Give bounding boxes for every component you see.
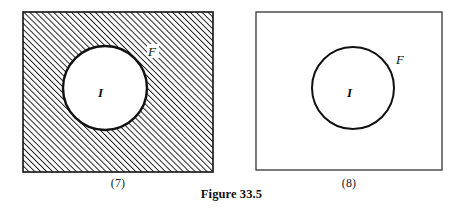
panel-7-graphic: F I [22, 11, 214, 173]
panel-7-boundary-label: F [147, 44, 157, 59]
figure-caption: Figure 33.5 [0, 187, 463, 202]
panel-8-plain-region: F I [255, 11, 443, 171]
panel-8-disc [312, 47, 394, 129]
panel-7-interior-label: I [97, 85, 104, 100]
panel-7-disc [63, 46, 147, 130]
panel-7-hatched-region: F I [22, 11, 214, 173]
panel-8-graphic: F I [255, 11, 443, 171]
panel-8-boundary-label: F [395, 52, 405, 67]
figure-33-5: F I (7) F I (8) Figure 33.5 [0, 0, 463, 210]
panel-8-interior-label: I [346, 85, 353, 100]
